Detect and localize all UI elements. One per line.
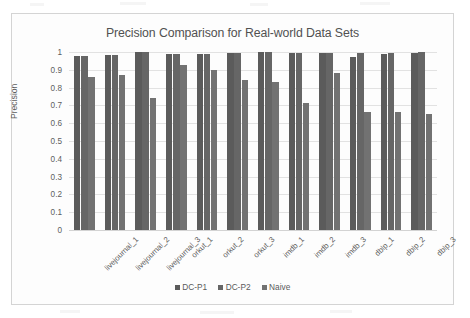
legend-item-dc-p1[interactable]: DC-P1 — [175, 282, 207, 292]
x-axis-tick-label: imdb_3 — [343, 235, 367, 259]
legend-swatch-icon — [262, 285, 267, 290]
y-axis-tick-label: 0.3 — [51, 172, 62, 181]
bar-dc-p2-imdb_1 — [265, 52, 271, 230]
bar-dc-p1-imdb_2 — [289, 53, 295, 230]
bar-dc-p2-livejournal_2 — [112, 55, 118, 230]
bar-dc-p1-orkut_2 — [197, 54, 203, 230]
bar-dc-p1-orkut_1 — [166, 54, 172, 230]
y-axis-tick-label: 0.4 — [51, 154, 62, 163]
bar-dc-p2-dblp_2 — [388, 53, 394, 230]
bar-naive-imdb_2 — [303, 103, 309, 230]
y-axis-tick-label: 1 — [57, 48, 62, 57]
bar-group — [192, 52, 223, 230]
bar-naive-orkut_1 — [180, 65, 186, 230]
chart-title: Precision Comparison for Real-world Data… — [12, 26, 453, 40]
legend-label: DC-P2 — [226, 282, 251, 292]
bar-group — [284, 52, 315, 230]
bar-naive-dblp_2 — [395, 112, 401, 230]
y-axis-tick-label: 0.5 — [51, 137, 62, 146]
legend-item-dc-p2[interactable]: DC-P2 — [218, 282, 250, 292]
x-axis-tick-label: orkut_2 — [221, 235, 246, 260]
chart-legend: DC-P1DC-P2Naive — [12, 282, 453, 292]
y-axis-tick-label: 0.8 — [51, 83, 62, 92]
x-axis-tick-label: dblp_1 — [373, 235, 396, 258]
x-axis-tick-label: dblp_2 — [404, 235, 427, 258]
bars-layer — [69, 52, 437, 230]
bar-naive-livejournal_2 — [119, 75, 125, 230]
bar-naive-livejournal_1 — [88, 77, 94, 230]
legend-label: Naive — [269, 282, 290, 292]
bar-dc-p2-livejournal_1 — [81, 56, 87, 230]
bar-dc-p2-orkut_2 — [204, 54, 210, 230]
bar-dc-p2-dblp_3 — [418, 52, 424, 230]
y-axis-label: Precision — [9, 84, 19, 119]
bar-dc-p2-orkut_1 — [173, 54, 179, 230]
x-axis-tick-label: orkut_3 — [251, 235, 276, 260]
x-axis-labels: livejournal_1livejournal_2livejournal_3o… — [69, 233, 437, 289]
legend-item-naive[interactable]: Naive — [262, 282, 291, 292]
y-axis-ticks: 10.90.80.70.60.50.40.30.20.10 — [22, 52, 66, 230]
bar-dc-p1-orkut_3 — [227, 53, 233, 230]
bar-dc-p1-dblp_2 — [381, 54, 387, 230]
bar-group — [69, 52, 100, 230]
y-axis-tick-label: 0.1 — [51, 208, 62, 217]
y-axis-tick-label: 0.2 — [51, 190, 62, 199]
y-axis-tick-label: 0.7 — [51, 101, 62, 110]
x-axis-tick-label: imdb_1 — [282, 235, 306, 259]
bar-dc-p2-livejournal_3 — [142, 52, 148, 230]
bar-group — [130, 52, 161, 230]
bar-naive-dblp_1 — [364, 112, 370, 230]
x-axis-tick-label: imdb_2 — [312, 235, 336, 259]
bar-dc-p1-dblp_3 — [411, 53, 417, 230]
bar-naive-imdb_1 — [272, 82, 278, 230]
bar-dc-p1-livejournal_1 — [74, 56, 80, 230]
bar-dc-p2-orkut_3 — [234, 53, 240, 230]
bar-dc-p1-livejournal_2 — [105, 55, 111, 230]
y-axis-tick-label: 0.6 — [51, 119, 62, 128]
x-axis-tick-label: dblp_3 — [435, 235, 458, 258]
plot-area — [69, 52, 437, 230]
bar-naive-imdb_3 — [334, 73, 340, 230]
bar-group — [100, 52, 131, 230]
bar-group — [222, 52, 253, 230]
gridline — [69, 230, 437, 231]
bar-naive-livejournal_3 — [150, 98, 156, 230]
bar-group — [253, 52, 284, 230]
bar-group — [161, 52, 192, 230]
bar-dc-p2-dblp_1 — [357, 53, 363, 230]
bar-group — [314, 52, 345, 230]
bar-dc-p2-imdb_3 — [326, 53, 332, 230]
y-axis-tick-label: 0.9 — [51, 65, 62, 74]
bar-naive-dblp_3 — [426, 114, 432, 230]
y-axis-tick-label: 0 — [57, 226, 62, 235]
bar-group — [345, 52, 376, 230]
bar-dc-p1-livejournal_3 — [135, 52, 141, 230]
bar-dc-p1-imdb_1 — [258, 52, 264, 230]
bar-group — [406, 52, 437, 230]
bar-dc-p1-imdb_3 — [319, 53, 325, 230]
bar-dc-p1-dblp_1 — [350, 57, 356, 230]
bar-dc-p2-imdb_2 — [296, 53, 302, 230]
legend-label: DC-P1 — [182, 282, 207, 292]
chart-container: Precision Comparison for Real-world Data… — [11, 13, 454, 305]
bar-naive-orkut_3 — [242, 80, 248, 230]
legend-swatch-icon — [175, 285, 180, 290]
bar-naive-orkut_2 — [211, 70, 217, 230]
legend-swatch-icon — [218, 285, 223, 290]
bar-group — [376, 52, 407, 230]
